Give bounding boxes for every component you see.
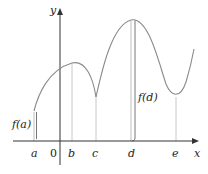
tick-label-b: b — [68, 147, 75, 160]
x-axis-arrow-icon — [192, 138, 199, 144]
graph-canvas: y x 0 a b c d e f(a) f(d) — [0, 0, 208, 174]
origin-label: 0 — [50, 147, 57, 160]
fd-annotation: f(d) — [137, 91, 158, 104]
tick-label-d: d — [128, 147, 135, 160]
tick-label-c: c — [92, 147, 98, 160]
y-axis-label: y — [49, 4, 57, 17]
curve-segment-2 — [96, 20, 194, 97]
tick-label-a: a — [31, 147, 38, 160]
fa-annotation: f(a) — [11, 118, 31, 131]
x-axis-label: x — [194, 147, 201, 160]
tick-label-e: e — [172, 147, 179, 160]
y-axis-arrow-icon — [57, 8, 63, 15]
function-graph-figure: y x 0 a b c d e f(a) f(d) — [0, 0, 208, 174]
curve-segment-1 — [34, 63, 96, 111]
